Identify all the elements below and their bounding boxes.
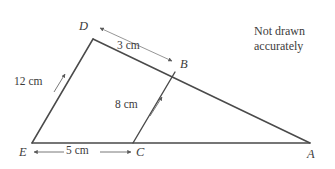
- segment-ED: [32, 39, 93, 143]
- note-line-2: accurately: [254, 39, 305, 54]
- segment-CB: [133, 72, 175, 143]
- vertex-label-D: D: [79, 20, 88, 33]
- not-drawn-accurately-note: Not drawn accurately: [254, 24, 305, 54]
- vertex-label-A: A: [307, 148, 315, 161]
- dimension-arrow-8cm: [150, 97, 162, 116]
- vertex-label-B: B: [180, 58, 188, 71]
- note-line-1: Not drawn: [254, 24, 305, 39]
- geometry-figure: D B E C A 3 cm 12 cm 8 cm 5 cm Not drawn…: [0, 0, 335, 169]
- vertex-label-C: C: [136, 146, 144, 159]
- segment-DA: [93, 39, 310, 143]
- measurement-label-ec: 5 cm: [66, 145, 89, 157]
- dimension-arrows: [34, 28, 172, 152]
- vertex-label-E: E: [19, 146, 27, 159]
- measurement-label-db: 3 cm: [117, 40, 140, 52]
- shape-outline: [32, 39, 310, 143]
- measurement-label-ed: 12 cm: [14, 76, 42, 88]
- measurement-label-cb: 8 cm: [115, 99, 138, 111]
